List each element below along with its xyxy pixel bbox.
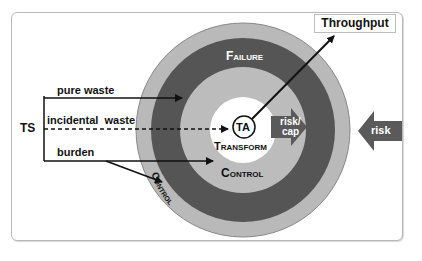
ta-label: TA [236,121,250,133]
ring-diagram: Control [0,0,422,261]
failure-label: Failure [226,49,263,63]
throughput-label: Throughput [314,14,396,33]
risk-label: risk [371,124,391,136]
risk-cap-label-line2: cap [282,126,299,137]
ts-label: TS [20,121,35,135]
burden-label: burden [57,146,94,158]
inner-control-label: Control [221,166,263,180]
transform-label: Transform [214,140,267,152]
incidental-waste-label: incidental waste [47,114,135,126]
pure-waste-label: pure waste [57,84,114,96]
